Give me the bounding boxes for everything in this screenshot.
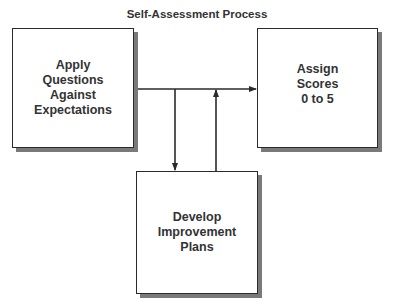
- node-label: Assign Scores 0 to 5: [297, 62, 339, 107]
- node-label: Develop Improvement Plans: [158, 210, 237, 255]
- node-apply-questions: Apply Questions Against Expectations: [12, 28, 134, 148]
- node-assign-scores: Assign Scores 0 to 5: [257, 28, 378, 148]
- node-label: Apply Questions Against Expectations: [34, 58, 112, 118]
- node-develop-plans: Develop Improvement Plans: [136, 171, 258, 294]
